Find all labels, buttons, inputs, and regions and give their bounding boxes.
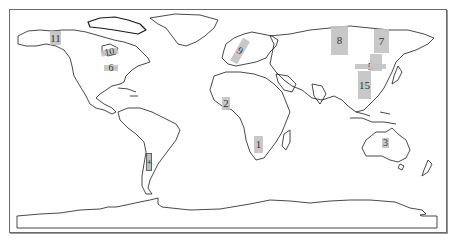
indonesia-outline — [350, 112, 396, 124]
region-5-north — [370, 54, 382, 71]
region-1: 1 — [254, 136, 263, 153]
arctic-islands-outline — [88, 17, 146, 34]
india-outline — [312, 84, 326, 104]
region-10-label: 10 — [104, 46, 116, 58]
tasmania-outline — [398, 164, 404, 170]
africa-outline — [210, 72, 290, 160]
new-zealand-outline — [422, 160, 432, 176]
caribbean-outline — [118, 88, 138, 96]
region-7-label: 7 — [379, 36, 385, 47]
greenland-outline — [150, 14, 218, 46]
region-8-label: 8 — [337, 35, 343, 46]
region-15-label: 15 — [359, 80, 370, 91]
region-1-label: 1 — [256, 139, 262, 150]
region-3: 3 — [382, 138, 389, 148]
region-4-label: 4 — [147, 159, 151, 166]
region-11: 11 — [50, 31, 61, 45]
region-8: 8 — [331, 26, 348, 55]
madagascar-outline — [282, 130, 290, 150]
region-6-label: 6 — [109, 63, 114, 73]
region-4: 4 — [146, 153, 152, 171]
region-2-label: 2 — [223, 98, 229, 109]
region-15: 15 — [358, 71, 371, 99]
region-7: 7 — [374, 29, 389, 53]
asia-outline — [270, 26, 434, 112]
region-3-label: 3 — [383, 138, 388, 148]
region-11-label: 11 — [50, 33, 61, 44]
region-2: 2 — [222, 97, 230, 110]
south-america-outline — [118, 108, 180, 194]
north-america-outline — [18, 30, 150, 114]
antarctica-outline — [17, 198, 437, 228]
region-6: 6 — [104, 65, 118, 71]
